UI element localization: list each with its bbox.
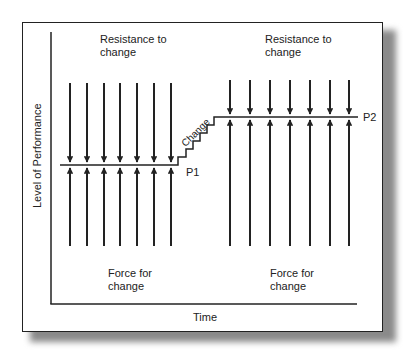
- x-axis-label: Time: [193, 311, 217, 324]
- left-force-label-line2: change: [108, 280, 152, 293]
- left-resistance-label: Resistance to change: [100, 33, 167, 59]
- diagram-canvas: [0, 0, 409, 356]
- left-resistance-label-line2: change: [100, 46, 167, 59]
- left-resistance-label-line1: Resistance to: [100, 33, 167, 46]
- right-resistance-arrows: [230, 80, 349, 114]
- right-force-label-line2: change: [270, 280, 314, 293]
- p1-label: P1: [186, 166, 199, 179]
- p2-label: P2: [363, 111, 376, 124]
- right-force-label: Force for change: [270, 267, 314, 293]
- right-force-arrows: [230, 120, 349, 246]
- right-force-label-line1: Force for: [270, 267, 314, 280]
- left-resistance-arrows: [70, 83, 171, 162]
- y-axis-label: Level of Performance: [31, 108, 43, 208]
- right-resistance-label-line1: Resistance to: [265, 33, 332, 46]
- left-force-label-line1: Force for: [108, 267, 152, 280]
- right-resistance-label: Resistance to change: [265, 33, 332, 59]
- left-force-arrows: [70, 168, 171, 246]
- left-force-label: Force for change: [108, 267, 152, 293]
- right-resistance-label-line2: change: [265, 46, 332, 59]
